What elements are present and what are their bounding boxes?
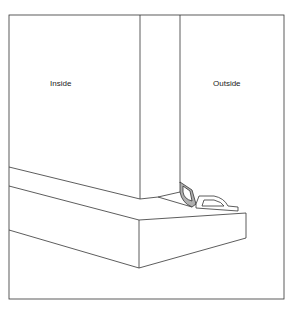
weatherstrip-seal bbox=[180, 182, 238, 211]
threshold-bottom-front bbox=[9, 230, 139, 268]
frame-border bbox=[9, 15, 284, 299]
outside-label: Outside bbox=[213, 79, 241, 88]
threshold-bottom-right bbox=[139, 238, 246, 268]
threshold-top-right bbox=[139, 213, 246, 220]
inside-label: Inside bbox=[50, 79, 71, 88]
threshold-top-front bbox=[9, 186, 139, 220]
door-threshold-diagram bbox=[0, 0, 292, 311]
floor-line bbox=[9, 167, 140, 199]
